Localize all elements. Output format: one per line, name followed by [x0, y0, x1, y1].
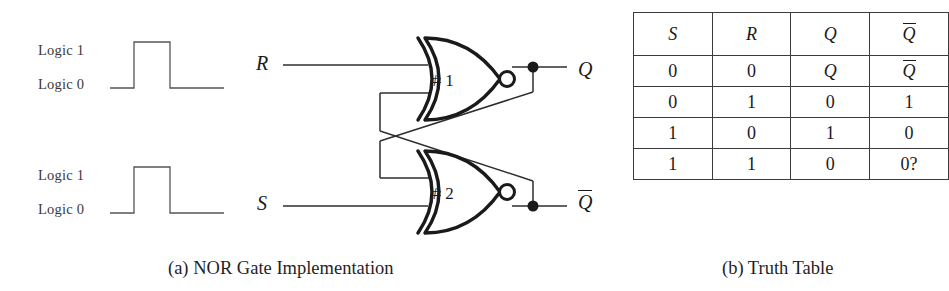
junction-dot-q	[528, 62, 539, 73]
inversion-bubble-gate-1	[500, 72, 515, 87]
output-label-qbar-text: Q	[578, 190, 592, 212]
cell-value: 1	[747, 93, 756, 112]
truth-table-header-cell: S	[634, 13, 713, 56]
truth-table-cell: 1	[870, 87, 949, 118]
cell-value: Q	[824, 62, 837, 81]
r-waveform-logic0-label: Logic 0	[38, 76, 84, 93]
output-label-q-text: Q	[578, 58, 592, 80]
truth-table-header-row: SRQQ	[634, 13, 949, 56]
cell-value: 0	[826, 155, 835, 174]
inversion-bubble-gate-2	[500, 185, 515, 200]
output-label-q: Q	[578, 58, 592, 81]
table-row: 00QQ	[634, 56, 949, 87]
truth-table-cell: 0	[870, 118, 949, 149]
caption-panel-a: (a) NOR Gate Implementation	[168, 258, 394, 279]
truth-table-cell: 0	[791, 87, 870, 118]
s-waveform-logic0-label: Logic 0	[38, 201, 84, 218]
truth-table-cell: 1	[712, 87, 791, 118]
input-label-r: R	[256, 52, 268, 75]
truth-table-cell: 1	[634, 149, 713, 180]
r-waveform-trace	[108, 34, 226, 96]
table-row: 1010	[634, 118, 949, 149]
truth-table-cell: 0	[712, 118, 791, 149]
output-label-qbar: Q	[578, 190, 592, 214]
truth-table-cell: Q	[870, 56, 949, 87]
truth-table-header-cell: Q	[870, 13, 949, 56]
cell-value: 0	[826, 93, 835, 112]
s-waveform-trace	[108, 159, 226, 221]
truth-table-cell: Q	[791, 56, 870, 87]
truth-table-cell: 1	[634, 118, 713, 149]
cell-value: 1	[905, 93, 914, 112]
truth-table-cell: 0	[634, 56, 713, 87]
nor-latch-schematic: # 1 # 2	[275, 20, 575, 235]
cell-value: 1	[668, 155, 677, 174]
cell-value: 1	[747, 155, 756, 174]
truth-table-cell: 0	[712, 56, 791, 87]
cell-value: 0	[668, 62, 677, 81]
cell-value: 1	[826, 124, 835, 143]
table-row: 1100?	[634, 149, 949, 180]
cell-value: Q	[824, 25, 837, 44]
truth-table-header-cell: R	[712, 13, 791, 56]
truth-table-cell: 0	[791, 149, 870, 180]
truth-table-cell: 1	[712, 149, 791, 180]
cell-value: R	[746, 25, 757, 44]
gate-2-label: # 2	[432, 184, 453, 203]
cell-value: Q	[903, 23, 916, 44]
truth-table-cell: 0?	[870, 149, 949, 180]
gate-1-label: # 1	[432, 71, 453, 90]
cell-value: S	[668, 25, 677, 44]
cell-value: 0	[747, 62, 756, 81]
cell-value: 0	[668, 93, 677, 112]
truth-table-cell: 1	[791, 118, 870, 149]
truth-table: SRQQ00QQ010110101100?	[633, 12, 949, 180]
table-row: 0101	[634, 87, 949, 118]
truth-table-cell: 0	[634, 87, 713, 118]
caption-panel-b: (b) Truth Table	[722, 258, 833, 279]
truth-table-body: SRQQ00QQ010110101100?	[634, 13, 949, 180]
cell-value: Q	[903, 60, 916, 81]
cell-value: 0	[905, 124, 914, 143]
input-label-s: S	[257, 192, 267, 215]
truth-table-header-cell: Q	[791, 13, 870, 56]
cell-value: 0	[747, 124, 756, 143]
cell-value: 1	[668, 124, 677, 143]
junction-dot-qbar	[528, 201, 539, 212]
r-waveform-logic1-label: Logic 1	[38, 42, 84, 59]
s-waveform-logic1-label: Logic 1	[38, 167, 84, 184]
cell-value: 0?	[901, 155, 918, 174]
